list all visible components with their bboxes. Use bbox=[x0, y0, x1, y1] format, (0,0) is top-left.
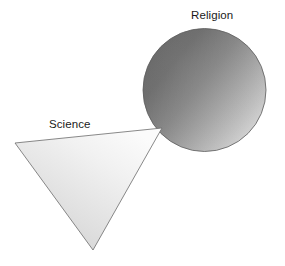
science-label: Science bbox=[49, 118, 91, 131]
religion-label: Religion bbox=[191, 9, 233, 22]
diagram-canvas bbox=[0, 0, 285, 266]
religion-sphere-group bbox=[143, 29, 266, 152]
religion-sphere-shading bbox=[144, 29, 266, 151]
